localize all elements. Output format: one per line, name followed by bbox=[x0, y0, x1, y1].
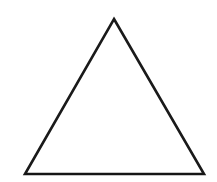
triangle-drawing bbox=[0, 0, 217, 182]
figure-canvas bbox=[0, 0, 217, 182]
